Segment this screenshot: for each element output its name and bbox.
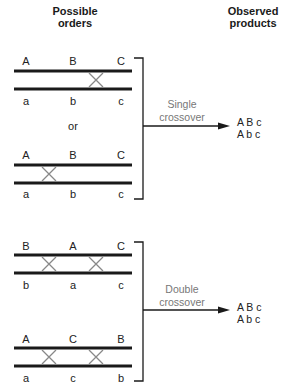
gene-label: C	[115, 240, 127, 252]
crossover-x-icon	[89, 73, 103, 87]
or-separator: or	[66, 120, 80, 132]
gene-label: A	[20, 333, 32, 345]
gene-label: a	[20, 372, 32, 384]
product-1: A B c	[237, 301, 262, 313]
gene-label: b	[67, 188, 79, 200]
gene-label: c	[115, 279, 127, 291]
gene-label: B	[67, 149, 79, 161]
crossover-x-icon	[42, 350, 56, 364]
gene-label: b	[20, 279, 32, 291]
gene-label: A	[67, 240, 79, 252]
gene-label: b	[67, 95, 79, 107]
gene-label: c	[67, 372, 79, 384]
crossover-x-icon	[89, 257, 103, 271]
gene-label: C	[115, 55, 127, 67]
crossover-x-icon	[89, 350, 103, 364]
gene-label: A	[20, 55, 32, 67]
gene-label: B	[67, 55, 79, 67]
gene-label: a	[20, 188, 32, 200]
gene-label: C	[67, 333, 79, 345]
gene-label: c	[115, 188, 127, 200]
crossover-x-icon	[42, 257, 56, 271]
single-crossover-label: Single crossover	[150, 98, 214, 124]
arrowhead-icon	[218, 307, 230, 314]
single-crossover-products: A B c A b c	[237, 116, 262, 140]
gene-label: B	[115, 333, 127, 345]
gene-label: B	[20, 240, 32, 252]
bracket-single	[134, 58, 143, 199]
double-crossover-products: A B c A b c	[237, 301, 262, 325]
arrowhead-icon	[218, 123, 230, 130]
crossover-marks	[42, 73, 103, 364]
gene-label: b	[115, 372, 127, 384]
gene-label: a	[67, 279, 79, 291]
crossover-x-icon	[42, 167, 56, 181]
product-2: A b c	[237, 313, 262, 325]
double-crossover-label: Double crossover	[150, 283, 214, 309]
gene-label: A	[20, 149, 32, 161]
gene-label: c	[115, 95, 127, 107]
gene-label: a	[20, 95, 32, 107]
gene-label: C	[115, 149, 127, 161]
bracket-double	[134, 242, 143, 381]
product-2: A b c	[237, 128, 262, 140]
product-1: A B c	[237, 116, 262, 128]
chromosome-diagram	[0, 0, 288, 389]
